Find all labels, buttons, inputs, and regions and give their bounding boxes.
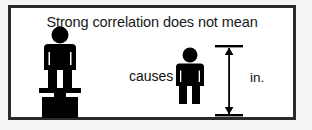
height-arrow-shaft-icon [228,48,230,114]
left-person-leg-left-icon [48,65,57,88]
left-person-leg-right-icon [63,65,72,88]
figure-scene: causes in. lb. [11,8,293,117]
height-arrow-top-tick-icon [215,45,243,47]
height-measure-arrow-icon [215,45,243,116]
scale-platform-icon [39,88,81,93]
right-person-leg-left-icon [179,82,187,104]
person-with-height-group [176,48,204,105]
figure-root: Strong correlation does not mean [0,0,312,130]
right-person-head-icon [183,48,198,63]
height-arrow-head-up-icon [225,48,234,56]
height-arrow-head-down-icon [225,107,234,115]
height-arrow-bottom-tick-icon [215,114,243,116]
scale-neck-icon [54,93,66,97]
right-person-leg-right-icon [192,82,200,104]
person-on-scale-group [39,27,81,119]
left-person-head-icon [52,27,69,44]
pictogram-artwork [11,8,299,123]
causes-label: causes [129,68,173,84]
scale-body-icon [42,97,78,118]
weight-unit-label: lb. [79,106,123,119]
figure-panel: Strong correlation does not mean [8,5,296,120]
height-unit-label: in. [250,70,264,86]
